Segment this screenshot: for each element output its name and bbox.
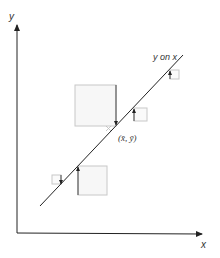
residual-square-large bbox=[75, 85, 116, 126]
residual-square-bottom bbox=[78, 166, 107, 195]
regression-line bbox=[40, 55, 183, 206]
residual-square-top bbox=[170, 70, 179, 79]
residual-square-middle bbox=[134, 108, 147, 121]
x-axis bbox=[17, 233, 202, 234]
y-axis-label: y bbox=[8, 11, 15, 22]
regression-diagram: y x y on x (x̄, ȳ) bbox=[0, 0, 220, 258]
mean-point-marker bbox=[106, 126, 111, 131]
residual-square-left bbox=[52, 175, 61, 184]
regression-line-label: y on x bbox=[152, 52, 178, 62]
mean-point-label: (x̄, ȳ) bbox=[118, 133, 136, 143]
x-axis-label: x bbox=[200, 239, 207, 250]
